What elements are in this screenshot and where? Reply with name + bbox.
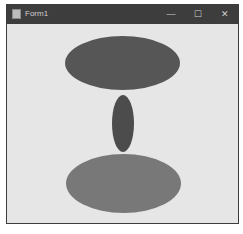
title-bar[interactable]: Form1 — ☐ ✕ [7,5,238,24]
maximize-button[interactable]: ☐ [185,5,211,24]
middle-ellipse [112,95,134,152]
bottom-ellipse [66,154,181,213]
drawing-canvas [7,24,238,223]
window-title: Form1 [25,8,48,20]
minimize-button[interactable]: — [158,5,184,24]
close-button[interactable]: ✕ [212,5,238,24]
top-ellipse [65,36,180,90]
app-icon[interactable] [12,9,21,19]
app-window: Form1 — ☐ ✕ [6,4,239,224]
